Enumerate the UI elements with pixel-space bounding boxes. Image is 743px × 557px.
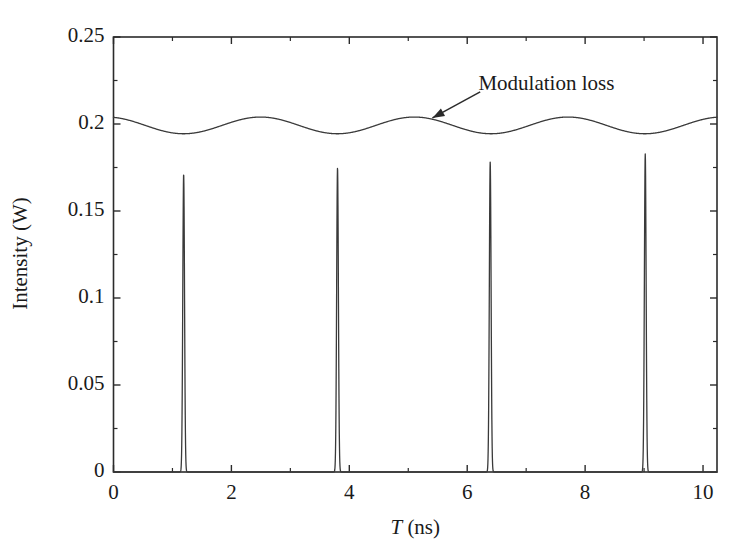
annotation-modulation-loss-label: Modulation loss <box>478 71 614 96</box>
x-tick-label: 6 <box>427 480 507 505</box>
x-tick-label: 2 <box>191 480 271 505</box>
axis-ticks <box>114 37 718 472</box>
y-axis-title: Intensity (W) <box>8 173 33 333</box>
chart-figure: 00.050.10.150.20.25 0246810 Intensity (W… <box>0 0 743 557</box>
x-tick-label: 10 <box>663 480 743 505</box>
x-axis-title: T (ns) <box>335 515 495 540</box>
y-tick-label: 0.15 <box>68 197 105 222</box>
x-tick-label: 0 <box>74 480 154 505</box>
y-tick-label: 0.1 <box>78 284 104 309</box>
x-tick-label: 8 <box>545 480 625 505</box>
x-tick-label: 4 <box>309 480 389 505</box>
y-tick-label: 0.25 <box>68 23 105 48</box>
annotation-arrow <box>432 92 480 118</box>
y-tick-label: 0.2 <box>78 110 104 135</box>
x-axis-title-symbol: T <box>390 515 402 539</box>
y-tick-label: 0.05 <box>68 371 105 396</box>
x-axis-title-units: (ns) <box>402 515 440 539</box>
data-series <box>114 117 718 472</box>
plot-canvas <box>0 0 743 557</box>
axes-frame <box>114 37 718 472</box>
